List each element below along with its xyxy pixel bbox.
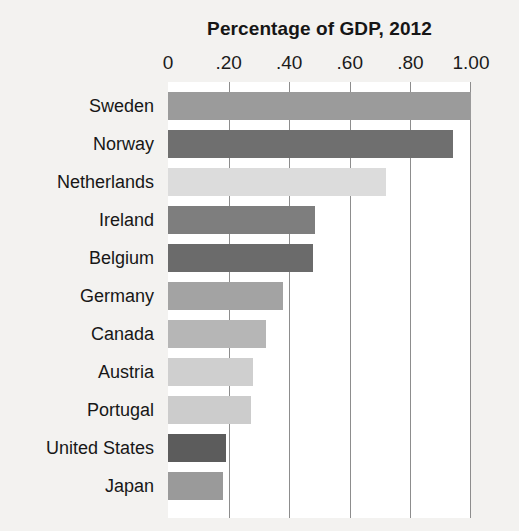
x-tick-label: 1.00 xyxy=(453,52,490,74)
category-label: United States xyxy=(46,429,154,467)
bar xyxy=(168,358,253,386)
x-tick-label: .60 xyxy=(337,52,363,74)
x-tick-label: .20 xyxy=(215,52,241,74)
category-label: Netherlands xyxy=(57,163,154,201)
bar-row xyxy=(168,125,471,163)
bar-row xyxy=(168,239,471,277)
bar xyxy=(168,434,226,462)
chart-figure: Percentage of GDP, 2012 0.20.40.60.801.0… xyxy=(0,0,519,531)
bar-row xyxy=(168,87,471,125)
bar xyxy=(168,168,386,196)
bar xyxy=(168,130,453,158)
category-label: Sweden xyxy=(89,87,154,125)
category-label: Norway xyxy=(93,125,154,163)
x-tick-label: .40 xyxy=(276,52,302,74)
category-label: Ireland xyxy=(99,201,154,239)
category-label: Japan xyxy=(105,467,154,505)
bar-row xyxy=(168,163,471,201)
bar xyxy=(168,320,266,348)
bar-row xyxy=(168,467,471,505)
bar xyxy=(168,206,315,234)
bar-row xyxy=(168,277,471,315)
chart-title: Percentage of GDP, 2012 xyxy=(168,18,471,40)
category-label: Canada xyxy=(91,315,154,353)
category-label: Germany xyxy=(80,277,154,315)
category-axis-labels: SwedenNorwayNetherlandsIrelandBelgiumGer… xyxy=(0,82,162,518)
bar xyxy=(168,472,223,500)
plot-area xyxy=(168,82,471,518)
x-tick-label: .80 xyxy=(397,52,423,74)
bar xyxy=(168,92,471,120)
category-label: Belgium xyxy=(89,239,154,277)
bar xyxy=(168,244,313,272)
bar-row xyxy=(168,353,471,391)
x-axis-tick-labels: 0.20.40.60.801.00 xyxy=(0,52,519,78)
bar xyxy=(168,282,283,310)
x-tick-label: 0 xyxy=(163,52,174,74)
bar xyxy=(168,396,251,424)
category-label: Austria xyxy=(98,353,154,391)
bar-row xyxy=(168,315,471,353)
bar-row xyxy=(168,429,471,467)
bar-row xyxy=(168,201,471,239)
bar-row xyxy=(168,391,471,429)
category-label: Portugal xyxy=(87,391,154,429)
